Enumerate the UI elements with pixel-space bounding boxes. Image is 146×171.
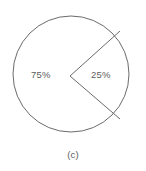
pie-slice-label-major: 75% [31, 70, 51, 80]
figure-caption: (c) [0, 150, 146, 160]
pie-chart-figure: 75% 25% (c) [0, 0, 146, 171]
pie-slice-label-minor: 25% [91, 70, 111, 80]
pie-chart-graphic [0, 0, 146, 146]
